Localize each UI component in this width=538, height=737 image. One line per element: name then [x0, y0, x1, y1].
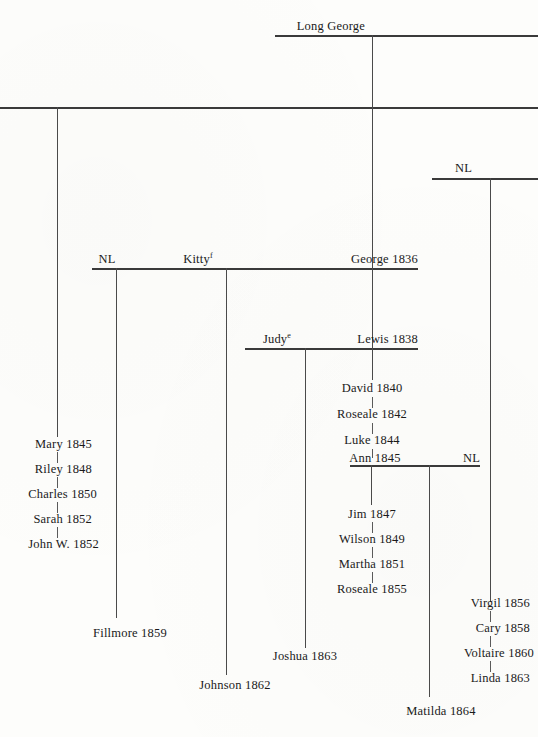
genealogy-chart: Long George NL NL Kittyf George 1836 Jud…	[0, 0, 538, 737]
label-judy: Judye	[263, 333, 291, 346]
label-johnson-1862: Johnson 1862	[199, 679, 271, 692]
label-david-1840: David 1840	[342, 382, 403, 395]
label-john-w-1852: John W. 1852	[28, 538, 99, 551]
paper-texture	[0, 0, 538, 737]
label-judy-name: Judy	[263, 332, 287, 346]
label-george-1836: George 1836	[351, 253, 418, 266]
label-joshua-1863: Joshua 1863	[273, 650, 337, 663]
label-judy-superscript: e	[287, 331, 291, 340]
label-voltaire-1860: Voltaire 1860	[464, 647, 534, 660]
descent-line-long-george	[372, 35, 373, 107]
label-roseale-1855: Roseale 1855	[337, 583, 407, 596]
label-matilda-1864: Matilda 1864	[406, 705, 475, 718]
label-cary-1858: Cary 1858	[476, 622, 530, 635]
label-nl-upper-right: NL	[455, 162, 472, 175]
label-nl-kitty-row: NL	[98, 253, 115, 266]
descent-line-center-branch	[372, 107, 373, 268]
label-virgil-1856: Virgil 1856	[471, 597, 530, 610]
union-bar-nl-upper-right	[432, 178, 538, 180]
label-sarah-1852: Sarah 1852	[33, 513, 92, 526]
descent-line-kitty	[226, 268, 227, 675]
descent-line-nl-upper-right	[490, 178, 491, 602]
label-fillmore-1859: Fillmore 1859	[93, 627, 167, 640]
descent-line-nl-ann-row	[429, 465, 430, 697]
descent-line-judy	[305, 348, 306, 648]
label-martha-1851: Martha 1851	[339, 558, 405, 571]
label-jim-1847: Jim 1847	[348, 508, 396, 521]
label-wilson-1849: Wilson 1849	[339, 533, 405, 546]
descent-line-left-branch	[57, 107, 58, 437]
label-kitty: Kittyf	[183, 253, 213, 266]
union-bar-long-george	[275, 35, 538, 37]
label-luke-1844: Luke 1844	[344, 434, 400, 447]
label-long-george: Long George	[297, 20, 365, 33]
descent-line-nl-kitty-row	[116, 268, 117, 618]
union-bar-ann-nl	[350, 465, 480, 467]
label-nl-ann-row: NL	[463, 452, 480, 465]
union-bar-generation-4	[245, 348, 418, 350]
label-roseale-1842: Roseale 1842	[337, 408, 407, 421]
label-charles-1850: Charles 1850	[28, 488, 97, 501]
label-mary-1845: Mary 1845	[35, 438, 92, 451]
union-bar-generation-3	[92, 268, 418, 270]
union-bar-generation-2	[0, 107, 538, 109]
descent-line-lewis-1838	[372, 348, 373, 380]
label-kitty-superscript: f	[210, 251, 213, 260]
label-lewis-1838: Lewis 1838	[357, 333, 418, 346]
label-kitty-name: Kitty	[183, 252, 210, 266]
label-riley-1848: Riley 1848	[35, 463, 92, 476]
descent-line-ann-children	[371, 465, 372, 505]
label-ann-1845: Ann 1845	[349, 452, 400, 465]
label-linda-1863: Linda 1863	[471, 672, 530, 685]
